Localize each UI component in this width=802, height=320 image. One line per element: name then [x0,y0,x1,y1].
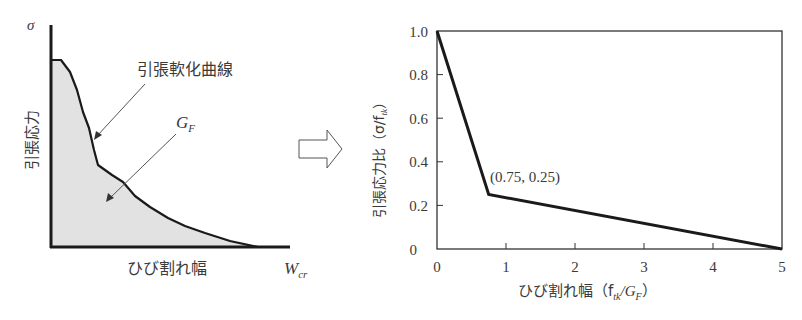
left-schematic-plot: σ 引張応力 引張軟化曲線 GF ひび割れ幅 Wcr [23,17,308,280]
svg-text:1.0: 1.0 [409,24,428,40]
svg-text:0: 0 [433,259,441,275]
svg-text:0.8: 0.8 [409,67,428,83]
right-y-axis-label: 引張応力比（σ/ftk） [371,95,389,218]
svg-text:5: 5 [778,259,786,275]
gf-label: GF [176,113,195,134]
svg-text:3: 3 [640,259,648,275]
y-tick-marks [437,75,443,206]
gf-pointer-arrow [110,134,176,198]
left-y-axis-label: 引張応力 [23,110,41,170]
bilinear-softening-line [437,31,782,249]
svg-text:0: 0 [410,242,418,258]
sigma-symbol: σ [27,17,35,33]
wcr-symbol: Wcr [284,259,308,280]
svg-text:1: 1 [502,259,510,275]
right-bilinear-chart: 1.0 0.8 0.6 0.4 0.2 0 0 1 2 3 4 5 (0.75,… [371,24,786,302]
y-tick-labels: 1.0 0.8 0.6 0.4 0.2 0 [409,24,428,258]
softening-curve-label: 引張軟化曲線 [137,60,233,79]
figure-canvas: σ 引張応力 引張軟化曲線 GF ひび割れ幅 Wcr [0,0,802,320]
right-x-axis-label: ひび割れ幅（ftk/GF） [518,282,657,302]
curve-pointer-arrow [97,84,145,136]
x-tick-marks [506,243,713,249]
left-x-axis-label: ひび割れ幅 [127,259,207,278]
fracture-energy-area [51,60,258,247]
svg-text:4: 4 [709,259,717,275]
breakpoint-annotation: (0.75, 0.25) [490,169,560,186]
svg-text:0.6: 0.6 [409,111,428,127]
right-arrow-icon [299,130,342,168]
x-tick-labels: 0 1 2 3 4 5 [433,259,786,275]
svg-text:0.2: 0.2 [409,198,428,214]
svg-text:0.4: 0.4 [409,154,428,170]
svg-text:2: 2 [571,259,579,275]
